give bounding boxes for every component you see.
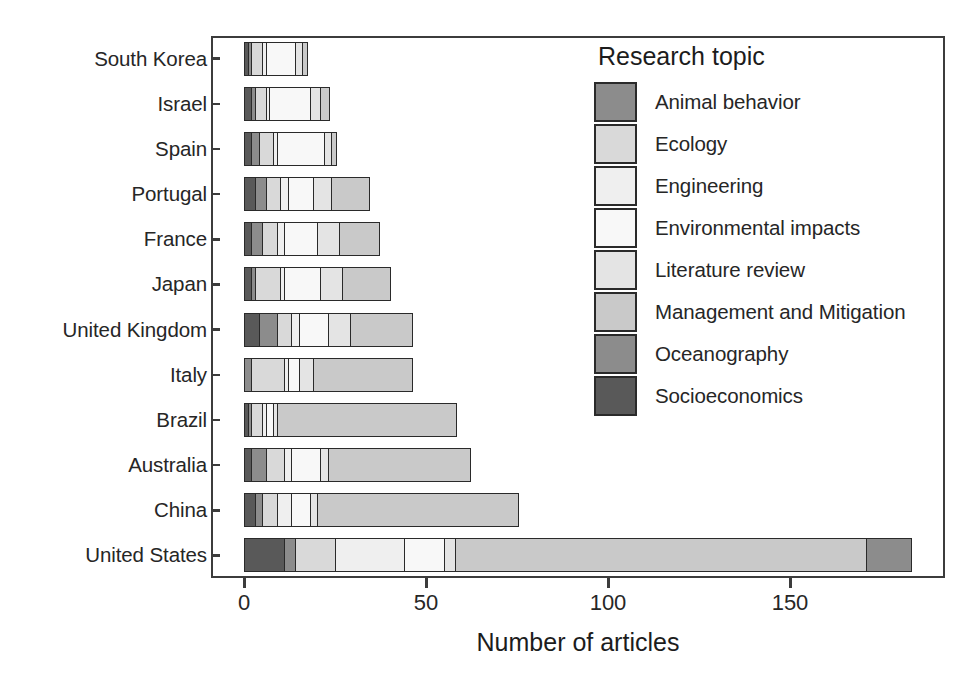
x-tick-mark: [789, 578, 792, 588]
x-tick-mark: [425, 578, 428, 588]
legend-swatch: [594, 82, 637, 122]
legend-label: Ecology: [655, 132, 727, 156]
y-tick-label: United States: [85, 543, 211, 567]
bar-segment: [328, 448, 472, 482]
bar-row: [211, 448, 945, 482]
bar-segment: [251, 358, 286, 392]
y-tick-label: Australia: [128, 453, 211, 477]
legend-swatch: [594, 166, 637, 206]
x-tick-mark: [243, 578, 246, 588]
x-axis-title: Number of articles: [211, 628, 945, 657]
y-tick-label: United Kingdom: [63, 318, 211, 342]
bar-segment: [266, 448, 286, 482]
y-tick-label: France: [144, 227, 211, 251]
legend-label: Environmental impacts: [655, 216, 860, 240]
legend-item[interactable]: Ecology: [594, 123, 940, 165]
bar-segment: [299, 313, 330, 347]
legend-item[interactable]: Environmental impacts: [594, 207, 940, 249]
legend-label: Socioeconomics: [655, 384, 803, 408]
x-tick-label: 50: [414, 590, 438, 616]
bar-segment: [266, 42, 297, 76]
bar-segment: [335, 538, 406, 572]
legend-label: Management and Mitigation: [655, 300, 906, 324]
bar-segment: [259, 313, 279, 347]
y-tick-label: Brazil: [156, 408, 211, 432]
bar-segment: [288, 177, 315, 211]
x-axis: 050100150: [211, 578, 945, 628]
bar-segment: [342, 267, 391, 301]
x-tick-label: 150: [772, 590, 809, 616]
y-tick-label: Spain: [155, 137, 211, 161]
legend-label: Oceanography: [655, 342, 788, 366]
bar-segment: [455, 538, 868, 572]
legend-label: Engineering: [655, 174, 763, 198]
legend-swatch: [594, 376, 637, 416]
legend-title: Research topic: [598, 42, 940, 71]
x-tick-mark: [607, 578, 610, 588]
legend-swatch: [594, 250, 637, 290]
y-axis: South KoreaIsraelSpainPortugalFranceJapa…: [0, 36, 211, 578]
bar-segment: [313, 358, 413, 392]
legend-item[interactable]: Animal behavior: [594, 81, 940, 123]
bar-segment: [404, 538, 446, 572]
bar-segment: [317, 222, 341, 256]
legend-items: Animal behaviorEcologyEngineeringEnviron…: [594, 81, 940, 417]
legend-swatch: [594, 124, 637, 164]
legend-item[interactable]: Socioeconomics: [594, 375, 940, 417]
legend: Research topic Animal behaviorEcologyEng…: [560, 42, 940, 417]
bar-segment: [317, 493, 519, 527]
bar-segment: [331, 132, 336, 166]
bar-segment: [295, 538, 337, 572]
bar-segment: [291, 493, 311, 527]
legend-label: Animal behavior: [655, 90, 801, 114]
legend-item[interactable]: Engineering: [594, 165, 940, 207]
bar-segment: [277, 403, 457, 437]
bar-segment: [284, 267, 322, 301]
legend-swatch: [594, 292, 637, 332]
y-tick-label: China: [154, 498, 211, 522]
y-tick-label: Portugal: [131, 182, 211, 206]
bar-segment: [244, 538, 286, 572]
y-tick-label: Italy: [170, 363, 211, 387]
bar-segment: [339, 222, 381, 256]
bar-row: [211, 493, 945, 527]
y-tick-label: Israel: [157, 92, 211, 116]
y-tick-label: Japan: [152, 272, 211, 296]
bar-segment: [284, 222, 319, 256]
y-tick-label: South Korea: [94, 47, 211, 71]
bar-segment: [277, 132, 326, 166]
bar-segment: [269, 87, 311, 121]
bar-segment: [255, 267, 282, 301]
bar-segment: [302, 42, 307, 76]
x-tick-label: 100: [590, 590, 627, 616]
bar-segment: [328, 313, 352, 347]
bar-row: [211, 538, 945, 572]
bar-segment: [331, 177, 369, 211]
bar-segment: [313, 177, 333, 211]
bar-segment: [291, 448, 322, 482]
legend-item[interactable]: Literature review: [594, 249, 940, 291]
legend-swatch: [594, 334, 637, 374]
stacked-bar-chart-figure: South KoreaIsraelSpainPortugalFranceJapa…: [0, 0, 980, 684]
legend-item[interactable]: Management and Mitigation: [594, 291, 940, 333]
legend-item[interactable]: Oceanography: [594, 333, 940, 375]
bar-segment: [866, 538, 911, 572]
x-tick-label: 0: [238, 590, 250, 616]
legend-label: Literature review: [655, 258, 805, 282]
bar-segment: [350, 313, 414, 347]
legend-swatch: [594, 208, 637, 248]
bar-segment: [320, 267, 344, 301]
bar-segment: [320, 87, 329, 121]
